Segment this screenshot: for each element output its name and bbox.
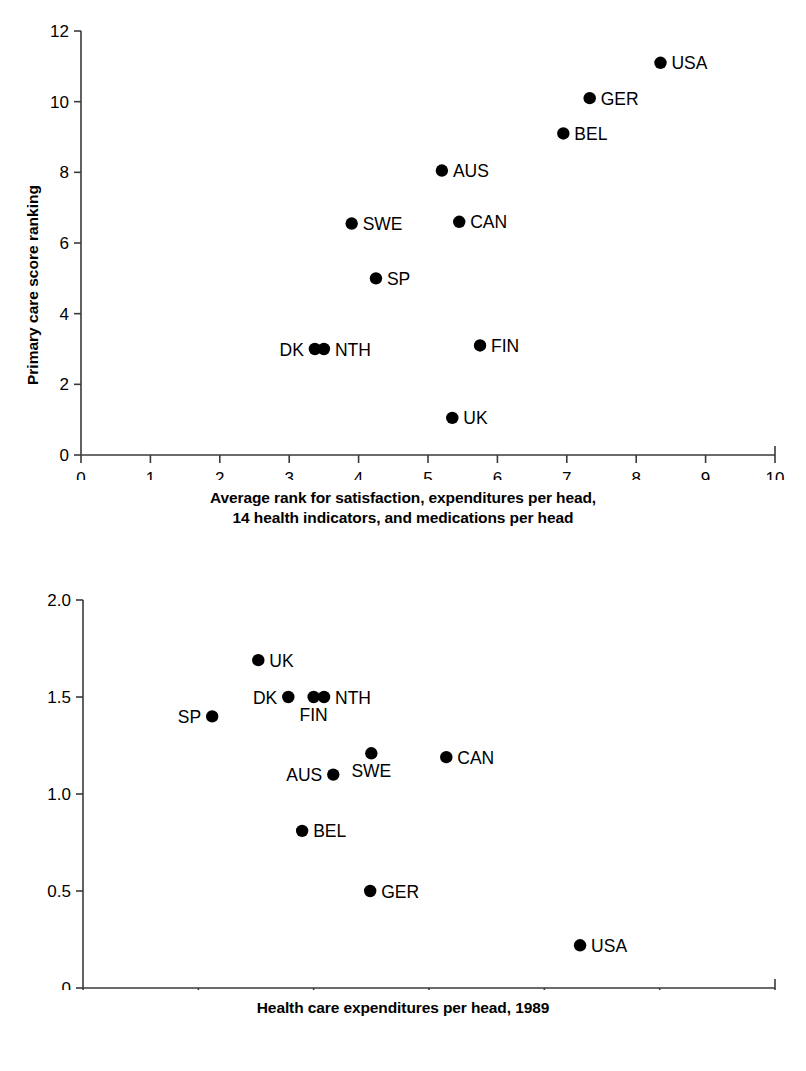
data-point-marker: [318, 691, 330, 703]
chart-top: 024681012012345678910USAGERBELAUSCANSWES…: [0, 0, 806, 540]
y-axis-tick-label: 12: [50, 22, 69, 41]
data-point-marker: [327, 768, 339, 780]
data-point: NTH: [318, 340, 371, 360]
data-point: USA: [654, 53, 708, 73]
data-point: AUS: [436, 161, 489, 181]
data-point: SWE: [351, 747, 391, 781]
data-point: DK: [280, 340, 322, 360]
data-point-marker: [206, 710, 218, 722]
data-point-label: BEL: [313, 821, 346, 841]
data-point: CAN: [440, 748, 494, 768]
x-axis-title-line: 14 health indicators, and medications pe…: [0, 508, 806, 528]
data-point-marker: [574, 939, 586, 951]
y-axis-tick-label: 10: [50, 93, 69, 112]
y-axis-tick-label: 1.0: [47, 785, 71, 804]
data-point-marker: [584, 92, 596, 104]
data-point-marker: [440, 751, 452, 763]
data-point-marker: [654, 57, 666, 69]
data-point: GER: [364, 882, 419, 902]
data-point: AUS: [286, 765, 339, 785]
x-axis-tick-label: 1: [146, 469, 155, 480]
y-axis-tick-label: 8: [60, 163, 69, 182]
x-axis-title-line: Average rank for satisfaction, expenditu…: [0, 488, 806, 508]
data-point-label: NTH: [335, 340, 371, 360]
x-axis-tick-label: 4: [354, 469, 363, 480]
x-axis-tick-label: 7: [562, 469, 571, 480]
x-axis-title-line: Health care expenditures per head, 1989: [0, 998, 806, 1018]
data-point-label: SP: [387, 269, 410, 289]
data-point: DK: [253, 688, 295, 708]
data-point-marker: [296, 825, 308, 837]
data-point-marker: [252, 654, 264, 666]
data-point-marker: [453, 216, 465, 228]
scatter-plot-top: 024681012012345678910USAGERBELAUSCANSWES…: [0, 0, 806, 480]
data-point-label: UK: [463, 408, 488, 428]
data-point-label: CAN: [457, 748, 494, 768]
data-point-marker: [345, 217, 357, 229]
data-point-label: GER: [601, 89, 639, 109]
x-axis-tick-label: 5: [423, 469, 432, 480]
data-point-label: SWE: [351, 761, 391, 781]
data-point: CAN: [453, 212, 507, 232]
x-axis-tick-label: 6: [493, 469, 502, 480]
data-point: BEL: [296, 821, 347, 841]
data-point-label: AUS: [286, 765, 322, 785]
data-point-marker: [318, 343, 330, 355]
y-axis-tick-label: 1.5: [47, 688, 71, 707]
chart-bottom: 00.51.01.52.0050010001500200025003000UKD…: [0, 540, 806, 1071]
data-point: BEL: [557, 124, 608, 144]
data-point-marker: [282, 691, 294, 703]
data-point-label: AUS: [453, 161, 489, 181]
data-point-marker: [365, 747, 377, 759]
x-axis-tick-label: 3: [284, 469, 293, 480]
x-axis-title-bottom: Health care expenditures per head, 1989: [0, 998, 806, 1018]
data-point: FIN: [474, 336, 519, 356]
data-point: UK: [252, 651, 294, 671]
data-point-label: USA: [671, 53, 707, 73]
y-axis-tick-label: 2: [60, 375, 69, 394]
data-point-label: BEL: [574, 124, 607, 144]
data-point: UK: [446, 408, 488, 428]
data-point-label: FIN: [491, 336, 519, 356]
data-point: USA: [574, 936, 628, 956]
data-point-label: CAN: [470, 212, 507, 232]
data-point-label: SWE: [363, 214, 403, 234]
data-point-marker: [446, 412, 458, 424]
x-axis-title-top: Average rank for satisfaction, expenditu…: [0, 488, 806, 528]
x-axis-tick-label: 2: [215, 469, 224, 480]
y-axis-tick-label: 0.5: [47, 882, 71, 901]
data-point-label: NTH: [335, 688, 371, 708]
data-point-marker: [364, 885, 376, 897]
x-axis-tick-label: 10: [766, 469, 785, 480]
x-axis-tick-label: 9: [701, 469, 710, 480]
x-axis-tick-label: 8: [631, 469, 640, 480]
y-axis-tick-label: 2.0: [47, 591, 71, 610]
y-axis-tick-label: 6: [60, 234, 69, 253]
data-point-label: DK: [280, 340, 305, 360]
data-point-label: DK: [253, 688, 278, 708]
data-point-label: USA: [591, 936, 627, 956]
data-point: SP: [178, 707, 219, 727]
data-point-label: SP: [178, 707, 201, 727]
data-point: SP: [370, 269, 411, 289]
data-point: SWE: [345, 214, 402, 234]
y-axis-title-top: Primary care score ranking: [24, 185, 42, 385]
x-axis-tick-label: 0: [76, 469, 85, 480]
data-point-marker: [436, 164, 448, 176]
data-point: GER: [584, 89, 639, 109]
y-axis-tick-label: 4: [60, 305, 69, 324]
data-point-label: GER: [381, 882, 419, 902]
data-point-label: FIN: [300, 705, 328, 725]
data-point-label: UK: [269, 651, 294, 671]
y-axis-tick-label: 0: [60, 446, 69, 465]
scatter-plot-bottom: 00.51.01.52.0050010001500200025003000UKD…: [0, 540, 806, 990]
y-axis-tick-label: 0: [62, 979, 71, 990]
data-point-marker: [474, 339, 486, 351]
data-point-marker: [370, 272, 382, 284]
data-point-marker: [557, 127, 569, 139]
